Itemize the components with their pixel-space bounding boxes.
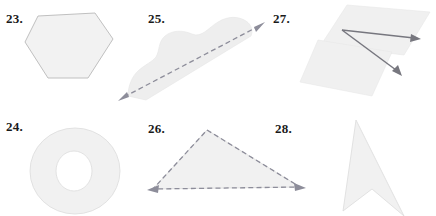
triangle-fill (153, 130, 300, 189)
figures-canvas (0, 0, 436, 216)
figure-label-24: 24. (6, 120, 23, 133)
figure-label-23: 23. (6, 12, 23, 25)
figure-24-annulus (30, 128, 120, 214)
figure-label-27: 27. (273, 12, 290, 25)
annulus-outer-ellipse (30, 128, 120, 214)
figure-23-hexagon (25, 13, 113, 78)
figure-label-25: 25. (148, 12, 165, 25)
triangle-dashed-outline (153, 130, 300, 189)
figure-26-arrow-head-bottom-right (294, 183, 306, 191)
plane-lower (300, 40, 392, 96)
figure-27-ray-2 (342, 30, 396, 70)
figure-27-arrow-head-ray-2 (392, 65, 402, 76)
figure-26-arrow-head-bottom-left (147, 185, 159, 193)
figure-26-dashed-triangle (147, 130, 306, 193)
worksheet-page: 23. 24. 25. 26. 27. 28. (0, 0, 436, 216)
figure-label-26: 26. (148, 122, 165, 135)
curved-blob-shape (128, 17, 252, 100)
figure-label-28: 28. (275, 122, 292, 135)
figure-27-arrow-head-ray-1 (410, 34, 421, 42)
figure-27-ray-1 (342, 30, 414, 38)
figure-25-curved-region (118, 17, 265, 101)
annulus-inner-ellipse (56, 151, 92, 191)
plane-upper (321, 5, 430, 55)
figure-28-concave-arrowhead (343, 120, 404, 216)
figure-27-angle (300, 5, 430, 96)
figure-25-dashed-line (124, 26, 259, 97)
figure-25-arrow-head-upper-right (254, 22, 265, 32)
figure-25-arrow-head-lower-left (118, 92, 129, 101)
